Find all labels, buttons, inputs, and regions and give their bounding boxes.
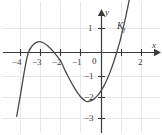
xtick-label--4: −4: [12, 58, 22, 67]
ytick-label--1: −1: [84, 72, 94, 81]
x-axis-label: x: [152, 41, 156, 50]
function-graph-figure: −4 −3 −2 −1 2 0 1 −1 −2 −3 x y Kf: [0, 0, 162, 135]
origin-label: 0: [92, 57, 97, 66]
x-axis: [3, 49, 161, 56]
xtick-label-2: 2: [138, 58, 143, 67]
ytick-label-1: 1: [88, 24, 93, 33]
y-axis-label: y: [105, 8, 109, 17]
ytick-label--2: −2: [84, 93, 94, 102]
curve-label-subscript: f: [123, 26, 125, 34]
y-axis: [98, 9, 105, 133]
plot-canvas: [0, 0, 162, 135]
curve-label: Kf: [117, 22, 125, 34]
xtick-label--2: −2: [52, 58, 62, 67]
xtick-label--3: −3: [32, 58, 42, 67]
ytick-label--3: −3: [84, 114, 94, 123]
xtick-label--1: −1: [72, 58, 82, 67]
